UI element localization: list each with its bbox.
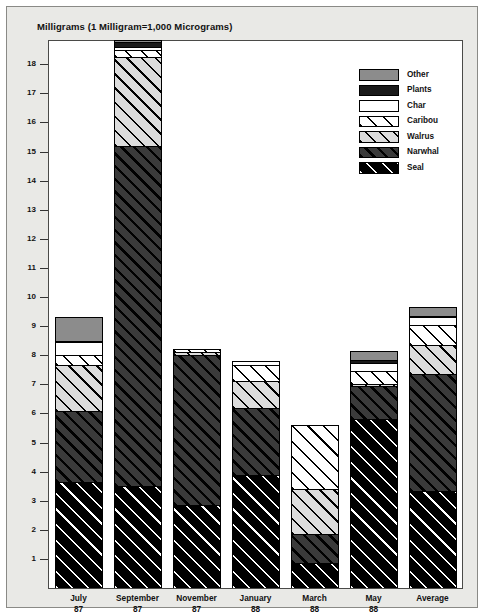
y-axis-tick xyxy=(40,443,48,444)
bar-segment-seal xyxy=(232,475,280,588)
y-axis-label: 14 xyxy=(14,176,36,185)
bar-segment-plants xyxy=(409,316,457,317)
bar-segment-other xyxy=(350,351,398,360)
bar-segment-walrus xyxy=(173,352,221,355)
legend-label-walrus: Walrus xyxy=(407,132,434,141)
bar-segment-other xyxy=(55,317,103,340)
bar-segment-narwhal xyxy=(291,534,339,563)
bar-segment-caribou xyxy=(232,365,280,381)
legend-swatch-plants xyxy=(359,85,399,97)
legend-label-seal: Seal xyxy=(407,163,424,172)
y-axis-label: 9 xyxy=(14,321,36,330)
bar-segment-walrus xyxy=(55,365,103,410)
bar-segment-narwhal xyxy=(232,408,280,475)
y-axis-tick xyxy=(40,297,48,298)
bar-segment-seal xyxy=(350,419,398,588)
x-axis-label-line2: 88 xyxy=(310,604,319,614)
y-axis-label: 11 xyxy=(14,263,36,272)
y-axis-tick xyxy=(40,472,48,473)
bar-segment-char xyxy=(55,342,103,355)
y-axis-label: 6 xyxy=(14,408,36,417)
bar-july-87 xyxy=(55,317,103,588)
bar-segment-seal xyxy=(173,505,221,588)
bar-segment-seal xyxy=(55,482,103,588)
bar-september-87 xyxy=(114,40,162,588)
legend-label-caribou: Caribou xyxy=(407,116,438,125)
y-axis-label: 8 xyxy=(14,350,36,359)
y-axis-tick xyxy=(40,122,48,123)
bar-segment-walrus xyxy=(350,384,398,385)
y-axis-label: 10 xyxy=(14,292,36,301)
y-axis-tick xyxy=(40,413,48,414)
x-axis-label-line2: 88 xyxy=(251,604,260,614)
y-axis-label: 16 xyxy=(14,117,36,126)
y-axis-tick xyxy=(40,326,48,327)
y-axis-tick xyxy=(40,501,48,502)
x-axis-label-line1: November xyxy=(176,593,217,603)
bar-segment-narwhal xyxy=(173,355,221,505)
bar-segment-seal xyxy=(114,486,162,588)
bar-segment-char xyxy=(409,317,457,324)
x-axis-label-line1: May xyxy=(365,593,381,603)
bar-segment-seal xyxy=(291,563,339,588)
bar-segment-char xyxy=(232,361,280,365)
y-axis-label: 1 xyxy=(14,554,36,563)
x-axis-label-line1: January xyxy=(240,593,272,603)
x-axis-label-line1: March xyxy=(302,593,326,603)
x-axis-label-line2: 88 xyxy=(369,604,378,614)
y-axis-label: 5 xyxy=(14,438,36,447)
bar-november-87 xyxy=(173,349,221,588)
bar-segment-walrus xyxy=(114,57,162,146)
bar-segment-plants xyxy=(55,341,103,342)
y-axis-label: 4 xyxy=(14,467,36,476)
legend-swatch-seal xyxy=(359,162,399,174)
y-axis-label: 15 xyxy=(14,147,36,156)
x-axis-label: Average xyxy=(390,593,476,604)
bar-segment-other xyxy=(114,40,162,43)
bar-march-88 xyxy=(291,425,339,588)
bar-may-88 xyxy=(350,351,398,588)
plot-canvas xyxy=(49,41,462,588)
y-axis-tick xyxy=(40,152,48,153)
x-axis-label-line1: September xyxy=(116,593,159,603)
bar-segment-narwhal xyxy=(350,386,398,419)
y-axis-label: 12 xyxy=(14,234,36,243)
chart-title: Milligrams (1 Milligram=1,000 Micrograms… xyxy=(37,21,233,32)
bar-segment-caribou xyxy=(350,371,398,384)
bar-segment-caribou xyxy=(291,425,339,489)
bar-segment-narwhal xyxy=(409,374,457,490)
y-axis-tick xyxy=(40,239,48,240)
bar-segment-caribou xyxy=(409,325,457,345)
y-axis-tick xyxy=(40,384,48,385)
bar-segment-plants xyxy=(350,360,398,363)
bar-segment-char xyxy=(350,363,398,372)
bar-average xyxy=(409,307,457,588)
bar-segment-seal xyxy=(409,491,457,588)
legend-label-narwhal: Narwhal xyxy=(407,147,439,156)
y-axis-tick xyxy=(40,93,48,94)
x-axis-label-line2: 87 xyxy=(74,604,83,614)
y-axis-tick xyxy=(40,530,48,531)
y-axis-label: 13 xyxy=(14,205,36,214)
y-axis-label: 18 xyxy=(14,59,36,68)
legend-swatch-other xyxy=(359,69,399,81)
y-axis-tick xyxy=(40,210,48,211)
legend-swatch-char xyxy=(359,100,399,112)
plot-area xyxy=(48,40,463,589)
y-axis-tick xyxy=(40,181,48,182)
y-axis-tick xyxy=(40,64,48,65)
legend-label-plants: Plants xyxy=(407,85,432,94)
bar-segment-caribou xyxy=(114,50,162,57)
y-axis-tick xyxy=(40,559,48,560)
legend-swatch-caribou xyxy=(359,116,399,128)
bar-segment-walrus xyxy=(291,489,339,534)
x-axis-label-line2: 87 xyxy=(133,604,142,614)
bar-segment-narwhal xyxy=(114,146,162,486)
bar-segment-caribou xyxy=(173,349,221,352)
legend-swatch-narwhal xyxy=(359,147,399,159)
bar-segment-caribou xyxy=(55,355,103,365)
x-axis-label-line1: July xyxy=(70,593,87,603)
bar-segment-walrus xyxy=(232,381,280,407)
y-axis-label: 2 xyxy=(14,525,36,534)
x-axis-label-line1: Average xyxy=(416,593,448,603)
